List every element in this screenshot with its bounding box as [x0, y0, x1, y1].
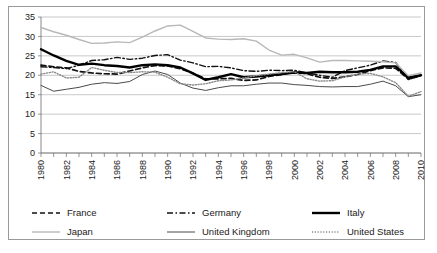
x-axis-tick-label: 2004 [340, 160, 350, 180]
chart-legend: France Germany Italy Japan United Kingdo… [31, 203, 416, 241]
x-axis-tick-label: 1986 [112, 160, 122, 180]
legend-label-france: France [67, 207, 97, 218]
legend-swatch-germany [166, 208, 196, 218]
y-axis-tick-label: 30 [25, 32, 35, 42]
legend-swatch-italy [311, 208, 341, 218]
series-line-japan [41, 25, 421, 76]
y-axis-tick-label: 0 [30, 148, 35, 158]
y-axis-tick-label: 20 [25, 70, 35, 80]
x-axis-tick-label: 1998 [264, 160, 274, 180]
legend-swatch-united-states [311, 227, 341, 237]
x-axis-tick-label: 2008 [391, 160, 401, 180]
x-axis-tick-label: 2010 [416, 160, 426, 180]
x-axis-tick-label: 1990 [163, 160, 173, 180]
x-axis-tick-label: 2000 [290, 160, 300, 180]
x-axis-tick-label: 1992 [188, 160, 198, 180]
series-line-germany [41, 55, 421, 80]
x-axis-tick-label: 2002 [315, 160, 325, 180]
x-axis-tick-label: 2006 [366, 160, 376, 180]
x-axis-tick-label: 1982 [62, 160, 72, 180]
y-axis-tick-label: 10 [25, 109, 35, 119]
chart-frame: 0510152025303519801982198419861988199019… [8, 6, 425, 240]
y-axis-tick-label: 25 [25, 51, 35, 61]
legend-label-italy: Italy [347, 207, 364, 218]
x-axis-tick-label: 1994 [214, 160, 224, 180]
legend-label-germany: Germany [202, 207, 241, 218]
legend-label-japan: Japan [67, 226, 93, 237]
legend-item-united-kingdom[interactable]: United Kingdom [166, 222, 311, 241]
legend-item-france[interactable]: France [31, 203, 166, 222]
x-axis-tick-label: 1996 [239, 160, 249, 180]
legend-label-united-states: United States [347, 226, 404, 237]
x-axis-tick-label: 1988 [138, 160, 148, 180]
legend-row-2: Japan United Kingdom United States [31, 222, 416, 241]
legend-item-united-states[interactable]: United States [311, 222, 416, 241]
y-axis-tick-label: 35 [25, 12, 35, 22]
y-axis-tick-label: 5 [30, 129, 35, 139]
legend-item-germany[interactable]: Germany [166, 203, 311, 222]
legend-swatch-france [31, 208, 61, 218]
legend-swatch-japan [31, 227, 61, 237]
legend-item-japan[interactable]: Japan [31, 222, 166, 241]
legend-label-united-kingdom: United Kingdom [202, 226, 270, 237]
x-axis-tick-label: 1980 [36, 160, 46, 180]
legend-row-1: France Germany Italy [31, 203, 416, 222]
series-line-france [41, 65, 421, 80]
legend-item-italy[interactable]: Italy [311, 203, 416, 222]
x-axis-tick-label: 1984 [87, 160, 97, 180]
legend-swatch-united-kingdom [166, 227, 196, 237]
y-axis-tick-label: 15 [25, 90, 35, 100]
